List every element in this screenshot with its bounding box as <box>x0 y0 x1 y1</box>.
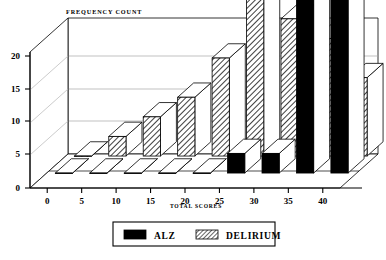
chart-canvas: FREQUENCY COUNT <box>0 0 386 260</box>
frequency-count-chart: FREQUENCY COUNT <box>0 0 386 260</box>
y-tick-0: 0 <box>16 183 21 193</box>
chart-title: FREQUENCY COUNT <box>66 8 142 15</box>
legend-label-delirium: DELIRIUM <box>226 231 281 241</box>
bar-delirium-15 <box>178 83 211 156</box>
x-tick-label-10: 10 <box>112 196 122 206</box>
legend-label-alz: ALZ <box>154 231 176 241</box>
solid-black-swatch <box>124 230 146 239</box>
bar-alz-35 <box>296 0 329 173</box>
legend: ALZ DELIRIUM <box>113 222 281 246</box>
y-tick-15: 15 <box>11 84 21 94</box>
hatched-swatch <box>196 230 218 239</box>
x-axis-title: TOTAL SCORES <box>170 203 222 209</box>
x-tick-label-30: 30 <box>249 196 259 206</box>
x-axis-ticks <box>47 188 323 193</box>
y-tick-5: 5 <box>16 149 21 159</box>
x-tick-label-15: 15 <box>146 196 156 206</box>
x-tick-label-35: 35 <box>284 196 294 206</box>
x-tick-label-40: 40 <box>318 196 328 206</box>
bar-delirium-25 <box>247 0 280 156</box>
bar-delirium-20 <box>212 44 245 156</box>
y-tick-20: 20 <box>11 51 21 61</box>
x-tick-label-5: 5 <box>79 196 84 206</box>
y-tick-10: 10 <box>11 116 21 126</box>
y-axis-tick-labels: 0 5 10 15 20 <box>11 51 21 193</box>
x-tick-label-0: 0 <box>45 196 50 206</box>
bar-alz-40 <box>331 0 364 173</box>
y-axis-ticks <box>25 56 30 188</box>
